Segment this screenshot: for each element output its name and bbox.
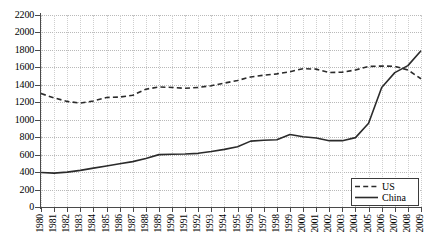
x-tick-label-1988: 1988 xyxy=(141,214,151,233)
legend-entry-china: China xyxy=(355,192,415,203)
y-tick-label-1200: 1200 xyxy=(1,97,34,107)
x-tick-label-1982: 1982 xyxy=(62,214,72,233)
y-tick-label-800: 800 xyxy=(1,132,34,142)
x-tick-mark-1984 xyxy=(93,207,94,212)
x-tick-mark-2000 xyxy=(303,207,304,212)
x-tick-label-1993: 1993 xyxy=(206,214,216,233)
y-tick-mark-1800 xyxy=(35,50,40,51)
x-tick-mark-1997 xyxy=(264,207,265,212)
x-tick-label-1989: 1989 xyxy=(154,214,164,233)
y-tick-label-200: 200 xyxy=(1,185,34,195)
y-tick-mark-400 xyxy=(35,172,40,173)
x-tick-label-1996: 1996 xyxy=(246,214,256,233)
x-tick-mark-2009 xyxy=(421,207,422,212)
x-tick-mark-1989 xyxy=(159,207,160,212)
y-tick-mark-200 xyxy=(35,190,40,191)
x-tick-mark-2003 xyxy=(342,207,343,212)
x-tick-label-1991: 1991 xyxy=(180,214,190,233)
y-tick-label-1000: 1000 xyxy=(1,115,34,125)
x-tick-mark-1999 xyxy=(290,207,291,212)
x-tick-label-2003: 2003 xyxy=(337,214,347,233)
x-tick-mark-1986 xyxy=(120,207,121,212)
legend-label-us: US xyxy=(382,182,395,192)
x-tick-mark-2002 xyxy=(329,207,330,212)
x-tick-label-2007: 2007 xyxy=(390,214,400,233)
x-tick-label-1999: 1999 xyxy=(285,214,295,233)
x-tick-label-1992: 1992 xyxy=(193,214,203,233)
x-tick-mark-1995 xyxy=(238,207,239,212)
x-tick-label-2001: 2001 xyxy=(311,214,321,233)
x-tick-label-1983: 1983 xyxy=(75,214,85,233)
x-tick-label-2006: 2006 xyxy=(377,214,387,233)
x-tick-mark-1992 xyxy=(198,207,199,212)
x-tick-label-1980: 1980 xyxy=(36,214,46,233)
y-tick-mark-1400 xyxy=(35,85,40,86)
y-tick-label-2200: 2200 xyxy=(1,10,34,20)
chart-legend: US China xyxy=(351,178,419,206)
x-tick-mark-1993 xyxy=(211,207,212,212)
x-tick-mark-1980 xyxy=(41,207,42,212)
line-chart-figure: 0200400600800100012001400160018002000220… xyxy=(0,0,431,249)
dashed-line-icon xyxy=(355,183,378,190)
series-line-us xyxy=(41,66,421,103)
x-tick-label-2008: 2008 xyxy=(403,214,413,233)
x-tick-label-1997: 1997 xyxy=(259,214,269,233)
y-tick-label-600: 600 xyxy=(1,150,34,160)
y-tick-mark-2000 xyxy=(35,32,40,33)
x-tick-mark-2008 xyxy=(408,207,409,212)
gridline-x-2009 xyxy=(421,15,422,207)
x-tick-mark-1994 xyxy=(224,207,225,212)
x-tick-label-1986: 1986 xyxy=(115,214,125,233)
x-tick-label-1994: 1994 xyxy=(219,214,229,233)
x-tick-label-2009: 2009 xyxy=(416,214,426,233)
x-tick-mark-1990 xyxy=(172,207,173,212)
x-tick-mark-1985 xyxy=(107,207,108,212)
x-tick-mark-1988 xyxy=(146,207,147,212)
x-tick-mark-2005 xyxy=(369,207,370,212)
x-tick-label-2002: 2002 xyxy=(324,214,334,233)
y-tick-label-0: 0 xyxy=(1,202,34,212)
y-axis-tick-labels: 0200400600800100012001400160018002000220… xyxy=(0,0,34,249)
x-tick-label-1984: 1984 xyxy=(88,214,98,233)
x-tick-label-2004: 2004 xyxy=(350,214,360,233)
x-tick-label-1987: 1987 xyxy=(128,214,138,233)
y-tick-label-1800: 1800 xyxy=(1,45,34,55)
x-tick-mark-2006 xyxy=(382,207,383,212)
y-tick-mark-1000 xyxy=(35,120,40,121)
x-tick-label-1981: 1981 xyxy=(49,214,59,233)
y-tick-label-1600: 1600 xyxy=(1,62,34,72)
y-tick-label-2000: 2000 xyxy=(1,27,34,37)
x-tick-mark-1996 xyxy=(251,207,252,212)
x-tick-mark-1987 xyxy=(133,207,134,212)
y-tick-mark-600 xyxy=(35,155,40,156)
x-tick-label-1995: 1995 xyxy=(233,214,243,233)
y-tick-mark-1200 xyxy=(35,102,40,103)
y-tick-mark-0 xyxy=(35,207,40,208)
x-tick-label-1985: 1985 xyxy=(102,214,112,233)
x-tick-mark-2004 xyxy=(355,207,356,212)
x-tick-label-2005: 2005 xyxy=(364,214,374,233)
x-tick-mark-1981 xyxy=(54,207,55,212)
x-tick-label-1990: 1990 xyxy=(167,214,177,233)
series-line-china xyxy=(41,51,421,173)
x-tick-mark-2007 xyxy=(395,207,396,212)
legend-entry-us: US xyxy=(355,181,415,192)
y-tick-mark-1600 xyxy=(35,67,40,68)
x-tick-label-1998: 1998 xyxy=(272,214,282,233)
x-tick-label-2000: 2000 xyxy=(298,214,308,233)
x-tick-mark-1983 xyxy=(80,207,81,212)
x-axis-line xyxy=(40,207,422,208)
y-tick-mark-800 xyxy=(35,137,40,138)
x-tick-mark-1982 xyxy=(67,207,68,212)
x-tick-mark-1991 xyxy=(185,207,186,212)
solid-line-icon xyxy=(355,194,378,201)
x-tick-mark-2001 xyxy=(316,207,317,212)
y-tick-label-1400: 1400 xyxy=(1,80,34,90)
y-tick-label-400: 400 xyxy=(1,167,34,177)
legend-label-china: China xyxy=(382,193,406,203)
x-tick-mark-1998 xyxy=(277,207,278,212)
y-tick-mark-2200 xyxy=(35,15,40,16)
